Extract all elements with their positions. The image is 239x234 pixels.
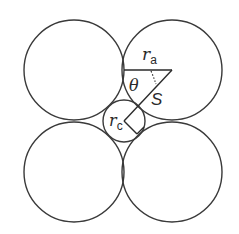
label-rc: rc — [109, 111, 123, 133]
large-circles — [24, 20, 222, 222]
large-circle-top-left — [24, 20, 124, 120]
close-packing-diagram: ra θ S rc — [0, 0, 239, 234]
dotted-angle-arc — [151, 71, 156, 84]
label-s: S — [151, 90, 163, 109]
large-circle-bottom-left — [24, 122, 124, 222]
label-ra: ra — [142, 44, 157, 67]
label-theta: θ — [129, 76, 139, 95]
rc-radius-line — [124, 121, 137, 134]
